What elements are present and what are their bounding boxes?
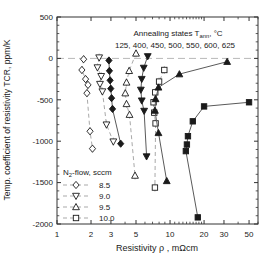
triangle-down-marker [103,122,110,128]
y-axis-label: Temp. coefficient of resistivity TCR, pp… [2,39,12,200]
triangle-down-marker [137,87,144,93]
x-tick-label: 30 [220,230,229,239]
x-tick-label: 1 [55,230,60,239]
diamond-marker [107,77,113,84]
diamond-marker [108,85,114,92]
triangle-down-marker [141,108,148,114]
y-tick-label: -500 [37,96,54,105]
square-marker [73,215,78,220]
triangle-down-marker [98,74,105,80]
triangle-up-marker [126,67,133,73]
square-marker [183,148,188,153]
triangle-up-marker [126,111,133,117]
diamond-marker [118,140,124,147]
x-tick-label: 5 [134,230,139,239]
legend-item-label-9.0: 9.0 [99,192,111,201]
x-tick-label: 2 [89,230,94,239]
legend-header-suffix: -flow, sccm [72,168,112,177]
square-marker [162,67,167,72]
diamond-marker [108,95,114,102]
square-marker [152,185,157,190]
y-tick-label: -1500 [33,178,54,187]
triangle-down-marker [138,76,145,82]
x-axis-label: Resistivity ρ , mΩcm [116,243,198,253]
x-tick-label: 20 [200,230,209,239]
diamond-marker [106,67,112,74]
triangle-up-marker [133,50,140,56]
diamond-marker [73,181,79,188]
triangle-down-marker [97,81,104,87]
legend-item-label-9.5: 9.5 [99,203,111,212]
series-line-n2-8.5-open [82,59,93,149]
triangle-down-marker [99,89,106,95]
series-line-n2-9.0-filled [141,56,148,156]
triangle-down-marker [94,65,101,71]
square-marker [246,100,251,105]
square-marker [156,79,161,84]
legend-header: N2-flow, sccm [63,168,112,178]
annealing-annotation-line2: 125, 400, 450, 500, 550, 600, 625 [115,41,236,50]
diamond-marker [89,145,95,152]
y-tick-label: 500 [40,13,54,22]
square-marker [201,104,206,109]
diamond-marker [109,105,115,112]
triangle-up-marker [163,177,170,183]
square-marker [195,215,200,220]
legend-item-label-10.0: 10.0 [99,214,115,223]
triangle-up-marker [155,129,162,135]
triangle-down-marker [110,139,117,145]
square-marker [190,119,195,124]
annealing-annotation-line1: Annealing states Tann, °C [133,29,222,39]
annotation-line1-suffix: , °C [209,29,223,38]
diamond-marker [81,56,87,63]
tcr-resistivity-figure: Resistivity ρ , mΩcm Temp. coefficient o… [0,0,273,272]
triangle-up-marker [224,58,231,64]
x-tick-label: 3 [109,230,114,239]
annotation-line1-prefix: Annealing states T [133,29,199,38]
square-marker [184,142,189,147]
x-tick-label: 50 [245,230,254,239]
tcr-resistivity-chart: Resistivity ρ , mΩcm Temp. coefficient o… [0,0,273,272]
diamond-marker [87,128,93,135]
triangle-up-marker [122,90,129,96]
triangle-up-marker [155,84,162,90]
triangle-up-marker [123,79,130,85]
triangle-down-marker [143,154,150,160]
y-tick-label: 0 [49,54,54,63]
triangle-up-marker [123,100,130,106]
x-tick-label: 10 [166,230,175,239]
y-tick-label: -1000 [33,137,54,146]
triangle-up-marker [132,172,139,178]
square-marker [185,134,190,139]
diamond-marker [79,66,85,73]
annotation-line1-subscript: ann [200,33,210,39]
triangle-down-marker [138,98,145,104]
triangle-down-marker [140,65,147,71]
y-tick-label: -2000 [33,220,54,229]
diamond-marker [84,90,90,97]
legend-item-label-8.5: 8.5 [99,181,111,190]
